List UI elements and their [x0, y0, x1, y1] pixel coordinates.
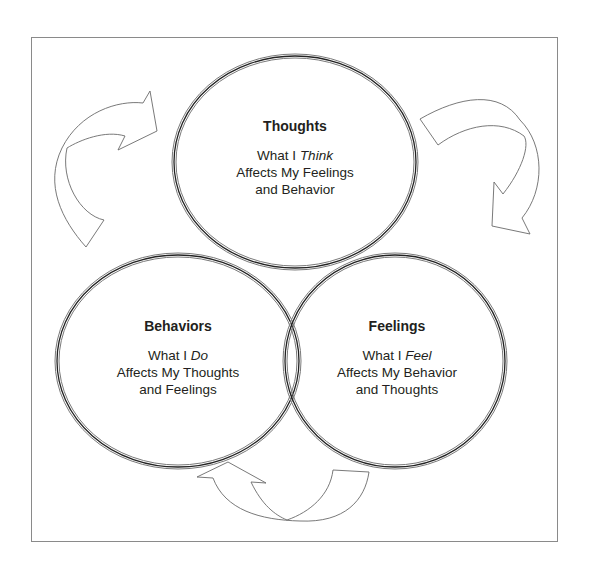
behaviors-title: Behaviors [92, 318, 264, 335]
behaviors-line1-emphasis: Do [191, 348, 208, 363]
feelings-line1-prefix: What I [362, 348, 405, 363]
behaviors-node: Behaviors What I Do Affects My Thoughts … [92, 318, 264, 398]
thoughts-line2: Affects My Feelings [215, 164, 375, 181]
behaviors-line1: What I Do [92, 347, 264, 364]
feelings-node: Feelings What I Feel Affects My Behavior… [311, 318, 483, 398]
thoughts-title: Thoughts [215, 118, 375, 135]
behaviors-line1-prefix: What I [148, 348, 191, 363]
thoughts-line1: What I Think [215, 147, 375, 164]
feelings-line1-emphasis: Feel [405, 348, 431, 363]
feelings-line1: What I Feel [311, 347, 483, 364]
behaviors-line2: Affects My Thoughts [92, 364, 264, 381]
thoughts-node: Thoughts What I Think Affects My Feeling… [215, 118, 375, 198]
thoughts-line1-emphasis: Think [300, 148, 333, 163]
thoughts-line3: and Behavior [215, 181, 375, 198]
feelings-title: Feelings [311, 318, 483, 335]
feelings-line2: Affects My Behavior [311, 364, 483, 381]
arrow-behaviors-to-thoughts-icon [55, 91, 157, 247]
arrow-thoughts-to-feelings-icon [420, 100, 539, 234]
thoughts-line1-prefix: What I [257, 148, 300, 163]
cycle-diagram [0, 0, 590, 573]
feelings-line3: and Thoughts [311, 381, 483, 398]
arrow-feelings-to-behaviors-icon [197, 462, 369, 521]
behaviors-line3: and Feelings [92, 381, 264, 398]
